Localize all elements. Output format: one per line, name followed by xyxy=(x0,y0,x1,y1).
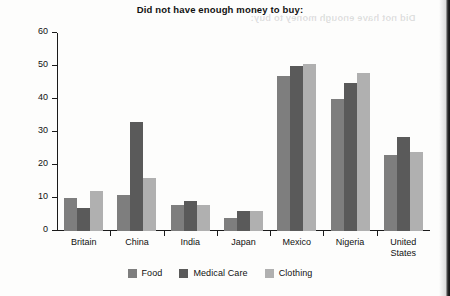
bar-group: China xyxy=(110,33,163,231)
bar xyxy=(331,99,344,231)
scan-edge-artifact xyxy=(446,0,450,296)
x-axis-category-label: China xyxy=(125,237,149,248)
bar-group: Mexico xyxy=(270,33,323,231)
x-axis-category-label: Japan xyxy=(231,237,256,248)
x-axis-tick xyxy=(164,231,165,236)
bar-group: Britain xyxy=(57,33,110,231)
scan-edge-shadow-artifact xyxy=(439,0,446,296)
bar xyxy=(250,211,263,231)
bar-group-bars xyxy=(117,33,156,231)
bar xyxy=(357,73,370,231)
bar xyxy=(277,76,290,231)
bar xyxy=(143,178,156,231)
y-axis-tick-label: 50 xyxy=(26,59,48,70)
bar xyxy=(224,218,237,231)
bar xyxy=(197,205,210,231)
bar-group-bars xyxy=(171,33,210,231)
legend-item[interactable]: Clothing xyxy=(265,268,313,278)
bar-group-bars xyxy=(224,33,263,231)
bar-group-bars xyxy=(331,33,370,231)
bar-group: India xyxy=(164,33,217,231)
bar-group-bars xyxy=(384,33,423,231)
bar-group: Nigeria xyxy=(323,33,376,231)
bar xyxy=(410,152,423,231)
legend-label: Clothing xyxy=(279,268,313,278)
bar xyxy=(303,64,316,231)
x-axis-tick xyxy=(377,231,378,236)
y-axis-tick-label: 0 xyxy=(26,224,48,235)
y-axis-tick-label: 10 xyxy=(26,191,48,202)
chart-page: Did not have enough money to buy: Did no… xyxy=(0,0,450,296)
chart-title: Did not have enough money to buy: xyxy=(0,4,440,15)
bar xyxy=(90,191,103,231)
bar xyxy=(290,66,303,231)
bar xyxy=(237,211,250,231)
x-axis-category-label: India xyxy=(180,237,200,248)
x-axis-category-label: Nigeria xyxy=(336,237,365,248)
bar xyxy=(77,208,90,231)
bar xyxy=(171,205,184,231)
legend-swatch-icon xyxy=(179,269,188,278)
x-axis-tick xyxy=(270,231,271,236)
bar xyxy=(117,195,130,231)
bar xyxy=(344,83,357,232)
bar xyxy=(130,122,143,231)
legend-label: Food xyxy=(142,268,163,278)
x-axis-tick xyxy=(217,231,218,236)
y-axis-tick-label: 60 xyxy=(26,26,48,37)
bar xyxy=(397,137,410,231)
x-axis-tick xyxy=(110,231,111,236)
y-axis-tick-label: 40 xyxy=(26,92,48,103)
bar xyxy=(384,155,397,231)
bar xyxy=(184,201,197,231)
legend-label: Medical Care xyxy=(193,268,247,278)
y-axis-tick-label: 30 xyxy=(26,125,48,136)
x-axis-tick xyxy=(323,231,324,236)
legend-item[interactable]: Medical Care xyxy=(179,268,247,278)
legend-swatch-icon xyxy=(265,269,274,278)
bar-group-bars xyxy=(277,33,316,231)
chart-legend: FoodMedical CareClothing xyxy=(0,268,440,278)
bar-group: Japan xyxy=(217,33,270,231)
x-axis-category-label: Mexico xyxy=(283,237,312,248)
bar-group-bars xyxy=(64,33,103,231)
plot-area: 0102030405060 BritainChinaIndiaJapanMexi… xyxy=(57,33,430,231)
legend-swatch-icon xyxy=(128,269,137,278)
x-axis-category-label: United States xyxy=(390,237,416,259)
bar xyxy=(64,198,77,231)
y-axis-tick-label: 20 xyxy=(26,158,48,169)
x-axis-category-label: Britain xyxy=(71,237,97,248)
legend-item[interactable]: Food xyxy=(128,268,163,278)
bar-group: United States xyxy=(377,33,430,231)
